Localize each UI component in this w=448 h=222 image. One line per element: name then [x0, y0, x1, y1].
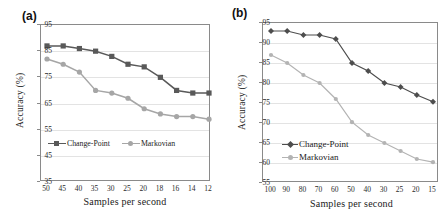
series-line-change-point: [271, 31, 433, 102]
y-axis-tick-mark: [37, 129, 40, 130]
data-point-marker: [61, 43, 66, 48]
x-axis-tick-label: 30: [380, 185, 388, 194]
data-point-marker: [174, 88, 179, 93]
data-point-marker: [190, 90, 195, 95]
data-point-marker: [301, 73, 305, 77]
x-axis-tick-label: 15: [428, 185, 436, 194]
panel-b-label: (b): [232, 6, 247, 20]
data-point-marker: [284, 28, 290, 34]
data-point-marker: [158, 75, 163, 80]
y-axis-tick-mark: [37, 24, 40, 25]
y-axis-tick-mark: [37, 181, 40, 182]
x-axis-tick-label: 35: [91, 184, 99, 193]
data-point-marker: [125, 96, 130, 101]
legend-label: Change-Point: [67, 139, 110, 148]
data-point-marker: [109, 54, 114, 59]
legend-item-markovian: Markovian: [282, 152, 349, 162]
x-axis-tick-label: 60: [331, 185, 339, 194]
panel-a-x-axis-label: Samples per second: [40, 196, 210, 207]
data-point-marker: [382, 141, 386, 145]
x-axis-tick-label: 50: [347, 185, 355, 194]
data-point-marker: [142, 106, 147, 111]
data-point-marker: [398, 84, 404, 90]
panel-a-plot-area: [40, 24, 210, 181]
series-line-markovian: [47, 59, 209, 119]
data-point-marker: [430, 99, 436, 105]
panel-b-x-axis-label: Samples per second: [264, 198, 439, 209]
series-layer: [41, 25, 211, 182]
x-axis-tick-label: 30: [107, 184, 115, 193]
data-point-marker: [350, 120, 354, 124]
legend-marker-icon: [48, 140, 66, 148]
y-axis-tick-mark: [259, 62, 262, 63]
panel-a: (a) Accuracy (%) Samples per second 9585…: [0, 0, 224, 222]
x-axis-tick-label: 100: [264, 185, 275, 194]
y-axis-tick-mark: [37, 76, 40, 77]
data-point-marker: [174, 114, 179, 119]
x-axis-tick-label: 20: [412, 185, 420, 194]
panel-a-legend: Change-PointMarkovian: [48, 139, 187, 148]
data-point-marker: [44, 56, 49, 61]
data-point-marker: [93, 49, 98, 54]
figure-two-panel-line-charts: (a) Accuracy (%) Samples per second 9585…: [0, 0, 448, 222]
x-axis-tick-label: 45: [58, 184, 66, 193]
data-point-marker: [399, 149, 403, 153]
x-axis-tick-label: 14: [188, 184, 196, 193]
y-axis-tick-mark: [259, 162, 262, 163]
x-axis-tick-label: 40: [75, 184, 83, 193]
x-axis-tick-label: 50: [42, 184, 50, 193]
panel-b-y-axis-label: Accuracy (%): [237, 75, 247, 130]
data-point-marker: [142, 64, 147, 69]
y-axis-tick-mark: [37, 103, 40, 104]
data-point-marker: [93, 88, 98, 93]
y-axis-tick-mark: [37, 155, 40, 156]
x-axis-tick-label: 16: [172, 184, 180, 193]
data-point-marker: [366, 133, 370, 137]
data-point-marker: [158, 111, 163, 116]
y-axis-tick-mark: [259, 82, 262, 83]
x-axis-tick-label: 12: [204, 184, 212, 193]
data-point-marker: [190, 114, 195, 119]
x-axis-tick-label: 25: [396, 185, 404, 194]
legend-marker-icon: [122, 140, 140, 148]
data-point-marker: [431, 160, 435, 164]
data-point-marker: [206, 117, 211, 122]
y-axis-tick-mark: [37, 50, 40, 51]
x-axis-tick-label: 18: [156, 184, 164, 193]
y-axis-tick-mark: [259, 42, 262, 43]
data-point-marker: [414, 92, 420, 98]
data-point-marker: [285, 61, 289, 65]
data-point-marker: [269, 53, 273, 57]
x-axis-tick-label: 70: [315, 185, 323, 194]
data-point-marker: [317, 32, 323, 38]
x-axis-tick-label: 80: [299, 185, 307, 194]
data-point-marker: [415, 157, 419, 161]
data-point-marker: [61, 62, 66, 67]
y-axis-tick-mark: [259, 22, 262, 23]
panel-b-legend: Change-PointMarkovian: [282, 139, 349, 165]
data-point-marker: [268, 28, 274, 34]
legend-item-change-point: Change-Point: [282, 139, 349, 149]
data-point-marker: [125, 62, 130, 67]
series-line-change-point: [47, 46, 209, 93]
legend-label: Markovian: [141, 139, 175, 148]
legend-item-change-point: Change-Point: [48, 139, 110, 148]
y-axis-tick-mark: [259, 182, 262, 183]
x-axis-tick-label: 25: [123, 184, 131, 193]
y-axis-tick-mark: [259, 142, 262, 143]
legend-label: Markovian: [299, 152, 339, 162]
data-point-marker: [300, 32, 306, 38]
x-axis-tick-label: 20: [139, 184, 147, 193]
data-point-marker: [206, 90, 211, 95]
panel-b: (b) Accuracy (%) Samples per second 9590…: [224, 0, 448, 222]
legend-marker-icon: [282, 140, 298, 148]
panel-a-y-axis-label: Accuracy (%): [15, 73, 25, 128]
data-point-marker: [109, 90, 114, 95]
data-point-marker: [318, 81, 322, 85]
data-point-marker: [334, 97, 338, 101]
data-point-marker: [77, 46, 82, 51]
legend-item-markovian: Markovian: [122, 139, 175, 148]
x-axis-tick-label: 40: [363, 185, 371, 194]
legend-marker-icon: [282, 153, 298, 161]
x-axis-tick-label: 90: [282, 185, 290, 194]
